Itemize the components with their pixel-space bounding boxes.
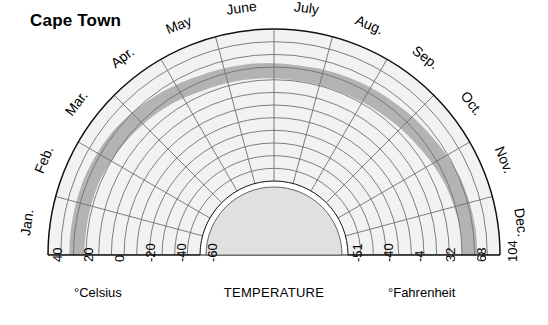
month-label-sep: Sep. [409, 42, 442, 72]
celsius-tick-minus60: -60 [205, 243, 220, 262]
month-label-mar: Mar. [62, 88, 91, 119]
month-label-nov: Nov. [492, 144, 517, 176]
fahrenheit-tick-minus4: -4 [412, 250, 427, 262]
month-label-dec: Dec. [511, 207, 531, 238]
month-label-july: July [293, 0, 320, 17]
fahrenheit-tick-32: 32 [443, 248, 458, 262]
month-label-feb: Feb. [31, 144, 57, 176]
fahrenheit-axis-label: °Fahrenheit [388, 285, 455, 300]
temperature-axis-label: TEMPERATURE [0, 285, 548, 300]
month-label-june: June [225, 0, 257, 18]
celsius-tick-40: 40 [50, 248, 65, 262]
fahrenheit-tick-minus40: -40 [381, 243, 396, 262]
page-title: Cape Town [30, 11, 121, 31]
celsius-tick-minus40: -40 [174, 243, 189, 262]
radial-temperature-dial: Jan.Feb.Mar.Apr.MayJuneJulyAug.Sep.Oct.N… [0, 0, 548, 325]
fahrenheit-tick-104: 104 [505, 240, 520, 262]
month-label-aug: Aug. [353, 12, 386, 38]
month-label-jan: Jan. [17, 208, 36, 236]
month-label-oct: Oct. [458, 88, 486, 118]
month-label-may: May [163, 12, 194, 37]
month-label-apr: Apr. [108, 43, 137, 71]
celsius-tick-20: 20 [81, 248, 96, 262]
celsius-tick-minus20: -20 [143, 243, 158, 262]
climate-chart: Cape Town Jan.Feb.Mar.Apr.MayJu [0, 0, 548, 325]
fahrenheit-tick-minus51: -51 [350, 243, 365, 262]
celsius-tick-0: 0 [112, 255, 127, 262]
fahrenheit-tick-68: 68 [474, 248, 489, 262]
